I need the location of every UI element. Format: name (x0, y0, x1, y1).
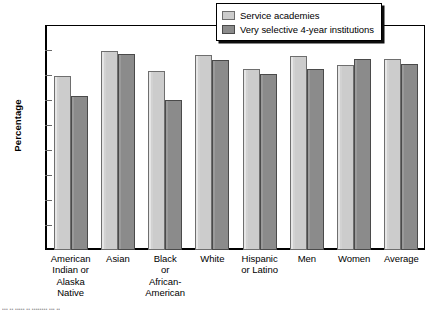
legend: Service academies Very selective 4-year … (216, 3, 382, 41)
bars-layer (47, 25, 425, 250)
bar (148, 71, 165, 250)
bar (290, 56, 307, 250)
bar-chart: Percentage 0102030405060708090 AmericanI… (0, 0, 432, 315)
bar (384, 59, 401, 250)
bar (118, 54, 135, 250)
bar (260, 74, 277, 250)
legend-swatch-icon (222, 25, 235, 34)
bar (243, 69, 260, 250)
x-axis-label: Average (371, 253, 432, 264)
bar-group (142, 25, 189, 250)
bar-group (189, 25, 236, 250)
x-axis-labels: AmericanIndian orAlaskaNativeAsianBlacko… (47, 253, 425, 311)
x-axis-label-line: Alaska (40, 276, 101, 287)
x-axis-label-line: American (135, 287, 196, 298)
bar (165, 100, 182, 250)
bar (401, 64, 418, 250)
legend-swatch-icon (222, 11, 235, 20)
bar (337, 65, 354, 250)
bar (354, 59, 371, 250)
legend-item: Very selective 4-year institutions (222, 22, 374, 36)
x-axis-label-line: Indian or (40, 264, 101, 275)
bar-group (331, 25, 378, 250)
x-axis-label-line: Average (371, 253, 432, 264)
bar (71, 96, 88, 250)
bar (54, 76, 71, 250)
bar (101, 51, 118, 250)
bar (212, 60, 229, 250)
x-axis-label-line: or Latino (229, 264, 290, 275)
bar-group (283, 25, 330, 250)
x-axis-label-line: Native (40, 287, 101, 298)
bar-group (236, 25, 283, 250)
bar (195, 55, 212, 250)
legend-item-label: Service academies (240, 10, 319, 21)
bar-group (378, 25, 425, 250)
bar-group (94, 25, 141, 250)
x-axis-label-line: African- (135, 276, 196, 287)
clipped-footer-text: ••• •• ••••• •• •••••••• ••• •• (2, 306, 60, 312)
bar (307, 69, 324, 250)
legend-item: Service academies (222, 8, 374, 22)
bar-group (47, 25, 94, 250)
y-axis-title: Percentage (12, 76, 23, 176)
legend-item-label: Very selective 4-year institutions (240, 24, 374, 35)
x-axis-label-line: or (135, 264, 196, 275)
